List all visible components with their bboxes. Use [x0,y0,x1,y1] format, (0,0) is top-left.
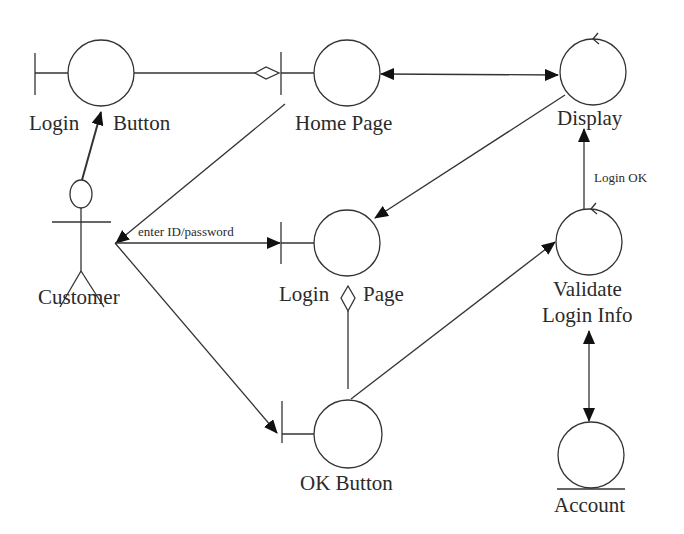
link-customer-loginbutton [82,112,101,180]
control-validate: Validate Login Info [542,203,632,327]
boundary-login-page: Login Page [279,210,404,306]
robustness-diagram: Login Button Home Page Display Customer … [0,0,684,534]
link-homepage-display [381,74,558,75]
home-page-label: Home Page [295,111,392,135]
login-page-label-left: Login [279,282,330,306]
boundary-ok-button: OK Button [282,400,393,495]
aggregation-loginbutton-homepage [134,67,279,79]
customer-label: Customer [38,285,120,309]
login-button-label-left: Login [29,111,80,135]
link-customer-okbutton [115,243,277,433]
validate-label-line2: Login Info [542,303,632,327]
ok-button-label: OK Button [300,471,393,495]
login-page-label-right: Page [363,282,404,306]
enter-id-message: enter ID/password [138,224,234,239]
validate-label-line1: Validate [553,277,622,301]
entity-account: Account [554,422,625,517]
aggregation-okbutton-loginpage [341,286,355,389]
control-display: Display [557,33,626,130]
account-label: Account [554,493,625,517]
display-label: Display [557,106,623,130]
actor-customer: Customer [38,180,120,309]
boundary-home-page: Home Page [281,40,392,135]
login-button-label-right: Button [113,111,171,135]
link-okbutton-validate [351,242,555,399]
login-ok-message: Login OK [594,170,648,185]
link-display-loginpage [375,95,565,218]
boundary-login-button: Login Button [29,40,171,135]
